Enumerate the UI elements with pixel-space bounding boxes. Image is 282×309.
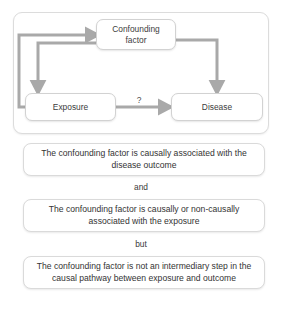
statement-text-1: The confounding factor is causally assoc… (34, 148, 254, 171)
node-disease: Disease (171, 93, 263, 121)
statement-box-1: The confounding factor is causally assoc… (23, 143, 265, 176)
diagram-page: Confounding factor Exposure Disease ? Th… (0, 0, 282, 309)
edge-label-question-mark: ? (131, 95, 147, 105)
statement-text-3: The confounding factor is not an interme… (34, 261, 254, 284)
node-confounding-factor-label-line2: factor (126, 35, 147, 45)
node-confounding-factor-label: Confounding factor (112, 24, 160, 46)
edge-confounder-to-disease (176, 40, 217, 83)
connector-and: and (0, 182, 282, 192)
node-confounding-factor: Confounding factor (96, 19, 176, 50)
edge-confounder-to-exposure (38, 43, 96, 83)
statement-box-2: The confounding factor is causally or no… (23, 199, 265, 232)
node-disease-label: Disease (202, 102, 232, 113)
connector-but: but (0, 239, 282, 249)
node-exposure: Exposure (25, 93, 116, 121)
node-exposure-label: Exposure (53, 102, 88, 113)
causal-diagram-frame: Confounding factor Exposure Disease ? (13, 12, 269, 134)
statement-box-3: The confounding factor is not an interme… (23, 256, 265, 289)
node-confounding-factor-label-line1: Confounding (112, 24, 160, 34)
statement-text-2: The confounding factor is causally or no… (34, 204, 254, 227)
